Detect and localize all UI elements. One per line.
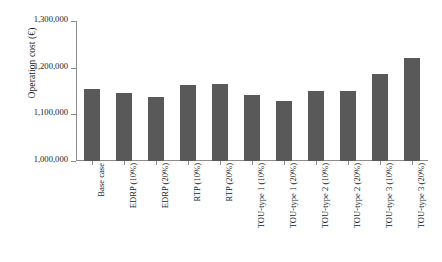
x-axis-category-label: TOU-type 1 (20%) <box>288 163 298 259</box>
x-axis-category-label: TOU-type 2 (10%) <box>320 163 330 259</box>
y-axis-tick-label: 1,100,000 <box>34 107 68 117</box>
bars-layer <box>76 21 428 161</box>
bar <box>276 101 292 161</box>
x-axis-category-label: TOU-type 1 (10%) <box>256 163 266 259</box>
bar <box>244 95 260 161</box>
bar <box>84 89 100 161</box>
x-axis-category-label: EDRP (20%) <box>160 163 170 259</box>
plot-area: 1,300,0001,200,0001,100,0001,000,000 <box>76 21 428 161</box>
y-axis-tick-label: 1,000,000 <box>34 154 68 164</box>
bar <box>148 97 164 161</box>
x-axis-category-label: RTP (20%) <box>224 163 234 259</box>
x-axis-category-label: TOU-type 2 (20%) <box>352 163 362 259</box>
x-axis-category-label: Base case <box>96 163 106 259</box>
bar <box>404 58 420 161</box>
x-axis-category-label: TOU-type 3 (20%) <box>416 163 426 259</box>
x-axis-category-label: RTP (10%) <box>192 163 202 259</box>
bar <box>308 91 324 161</box>
y-axis-tick: 1,200,000 <box>71 68 76 69</box>
bar-chart: Operation cost (€) 1,300,0001,200,0001,1… <box>0 0 442 262</box>
x-axis-category-label: EDRP (10%) <box>128 163 138 259</box>
y-axis-tick-label: 1,200,000 <box>34 61 68 71</box>
y-axis-tick: 1,000,000 <box>71 161 76 162</box>
x-axis-category-labels: Base caseEDRP (10%)EDRP (20%)RTP (10%)RT… <box>76 163 428 262</box>
bar <box>180 85 196 161</box>
bar <box>372 74 388 161</box>
y-axis-tick: 1,100,000 <box>71 114 76 115</box>
bar <box>212 84 228 161</box>
y-axis-tick: 1,300,000 <box>71 21 76 22</box>
bar <box>116 93 132 161</box>
bar <box>340 91 356 161</box>
y-axis-tick-label: 1,300,000 <box>34 14 68 24</box>
x-axis-category-label: TOU-type 3 (10%) <box>384 163 394 259</box>
